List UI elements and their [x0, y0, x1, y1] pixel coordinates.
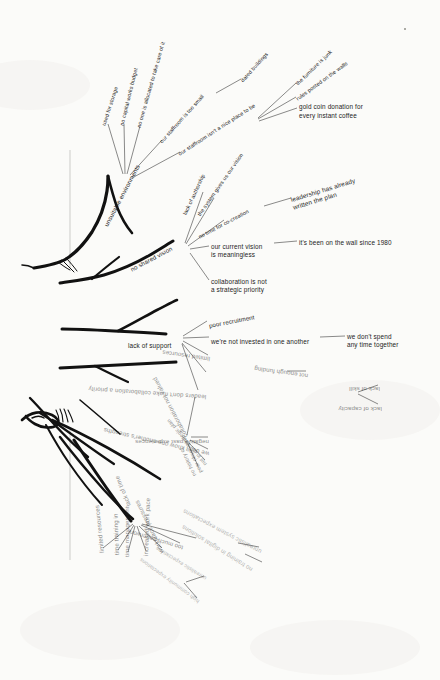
leaf-lack-of-skill[interactable]: lack of skill	[349, 385, 380, 393]
leaf-not-invested-in-one-another[interactable]: we're not invested in one another	[211, 338, 309, 346]
leaf-gold-coin-line2[interactable]: every instant coffee	[299, 112, 357, 120]
stray-mark	[404, 28, 406, 30]
leaf-time-training-in[interactable]: time training in	[112, 513, 121, 555]
leaf-gold-coin-line1[interactable]: gold coin donation for	[299, 103, 363, 111]
leaf-lack-of-capacity[interactable]: lack of capacity	[338, 405, 382, 413]
leaf-collaboration-not-strategic[interactable]: collaboration is not a strategic priorit…	[211, 278, 267, 295]
leaf-current-vision-meaningless[interactable]: our current vision is meaningless	[211, 243, 262, 260]
leaf-on-the-wall-since-1980[interactable]: it's been on the wall since 1980	[299, 239, 392, 247]
fan-unsuitable-environments	[108, 79, 297, 178]
leaf-dont-spend-time-together[interactable]: we don't spend any time together	[347, 333, 399, 350]
